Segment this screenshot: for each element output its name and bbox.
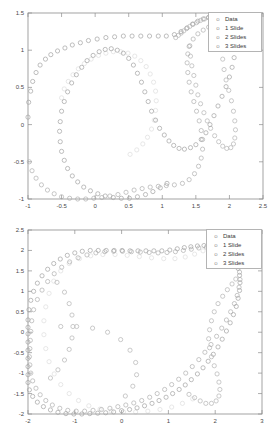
data-point — [227, 88, 231, 92]
data-point — [151, 80, 155, 84]
data-point — [46, 279, 50, 283]
x-tick-label: 2.5 — [259, 203, 267, 209]
data-point — [224, 78, 228, 82]
legend-entry[interactable]: o2 Slides — [211, 33, 258, 42]
legend-label: 2 Slides — [225, 33, 246, 42]
data-point — [27, 308, 31, 312]
legend-top[interactable]: oDatao1 Slideo2 Slideso3 Slides — [208, 12, 262, 52]
data-point — [172, 143, 176, 147]
data-point — [190, 364, 194, 368]
data-point — [88, 248, 92, 252]
data-point — [171, 391, 175, 395]
data-point — [135, 195, 139, 199]
legend-entry[interactable]: o3 Slides — [211, 42, 258, 51]
data-point — [94, 251, 98, 255]
data-point — [165, 250, 169, 254]
data-point — [217, 394, 221, 398]
data-point — [153, 108, 157, 112]
data-point — [218, 387, 222, 391]
data-point — [236, 296, 240, 300]
legend-label: 3 Slides — [223, 259, 244, 268]
data-point — [47, 291, 51, 295]
data-point — [140, 186, 144, 190]
data-point — [201, 28, 205, 32]
data-point — [149, 256, 153, 260]
legend-entry[interactable]: o1 Slide — [211, 24, 258, 33]
data-point — [148, 185, 152, 189]
data-point — [162, 257, 166, 261]
data-point — [29, 298, 33, 302]
data-point — [199, 128, 203, 132]
legend-entry[interactable]: o2 Slides — [209, 250, 258, 259]
data-point — [77, 257, 81, 261]
data-point — [157, 398, 161, 402]
data-point — [123, 394, 127, 398]
data-point — [213, 134, 217, 138]
data-point — [130, 34, 134, 38]
data-point — [158, 407, 162, 411]
y-tick-label: -0.5 — [0, 159, 24, 165]
data-point — [201, 366, 205, 370]
data-point — [78, 41, 82, 45]
data-point — [186, 52, 190, 56]
legend-bottom[interactable]: oDatao1 Slideo2 Slideso3 Slides — [206, 229, 262, 269]
data-point — [187, 392, 191, 396]
data-point — [62, 99, 66, 103]
data-point — [224, 318, 228, 322]
legend-label: Data — [225, 15, 238, 24]
x-tick-label: 1 — [161, 203, 164, 209]
data-point — [193, 252, 197, 256]
data-point — [183, 383, 187, 387]
data-point — [150, 401, 154, 405]
data-point — [182, 245, 186, 249]
data-point — [128, 152, 132, 156]
data-point — [89, 57, 93, 61]
legend-entry[interactable]: oData — [211, 15, 258, 24]
legend-label: 1 Slide — [223, 241, 241, 250]
data-point — [127, 407, 131, 411]
data-point — [177, 377, 181, 381]
data-point — [156, 251, 160, 255]
y-tick-label: -2 — [0, 411, 24, 417]
legend-entry[interactable]: o1 Slide — [209, 241, 258, 250]
data-point — [31, 394, 35, 398]
x-tick-label: 0 — [93, 203, 96, 209]
y-tick-label: 0 — [0, 122, 24, 128]
data-point — [29, 329, 33, 333]
y-tick-label: 0 — [0, 329, 24, 335]
matlab-figure: oDatao1 Slideo2 Slideso3 Slides -1-0.500… — [0, 0, 279, 442]
data-point — [127, 56, 131, 60]
x-tick-label: 0 — [120, 418, 123, 424]
data-point — [67, 347, 71, 351]
data-point — [52, 272, 56, 276]
data-point — [52, 261, 56, 265]
data-point — [70, 336, 74, 340]
data-point — [192, 99, 196, 103]
legend-marker-circle-icon: o — [209, 232, 223, 241]
data-point — [154, 99, 158, 103]
data-point — [119, 196, 123, 200]
data-point — [225, 288, 229, 292]
data-point — [129, 250, 133, 254]
data-point — [29, 89, 33, 93]
legend-entry[interactable]: oData — [209, 232, 258, 241]
x-tick-label: -2 — [25, 418, 30, 424]
data-point — [59, 324, 63, 328]
data-point — [231, 142, 235, 146]
data-point — [203, 350, 207, 354]
data-point — [59, 382, 63, 386]
data-point — [188, 146, 192, 150]
data-point — [128, 348, 132, 352]
data-point — [149, 109, 153, 113]
data-point — [233, 128, 237, 132]
data-point — [144, 64, 148, 68]
data-point — [173, 257, 177, 261]
data-point — [38, 393, 42, 397]
legend-marker-circle-icon: o — [211, 24, 225, 33]
series-data — [26, 14, 238, 200]
data-point — [113, 35, 117, 39]
legend-label: Data — [223, 232, 236, 241]
data-point — [70, 43, 74, 47]
data-point — [126, 51, 130, 55]
legend-entry[interactable]: o3 Slides — [209, 259, 258, 268]
